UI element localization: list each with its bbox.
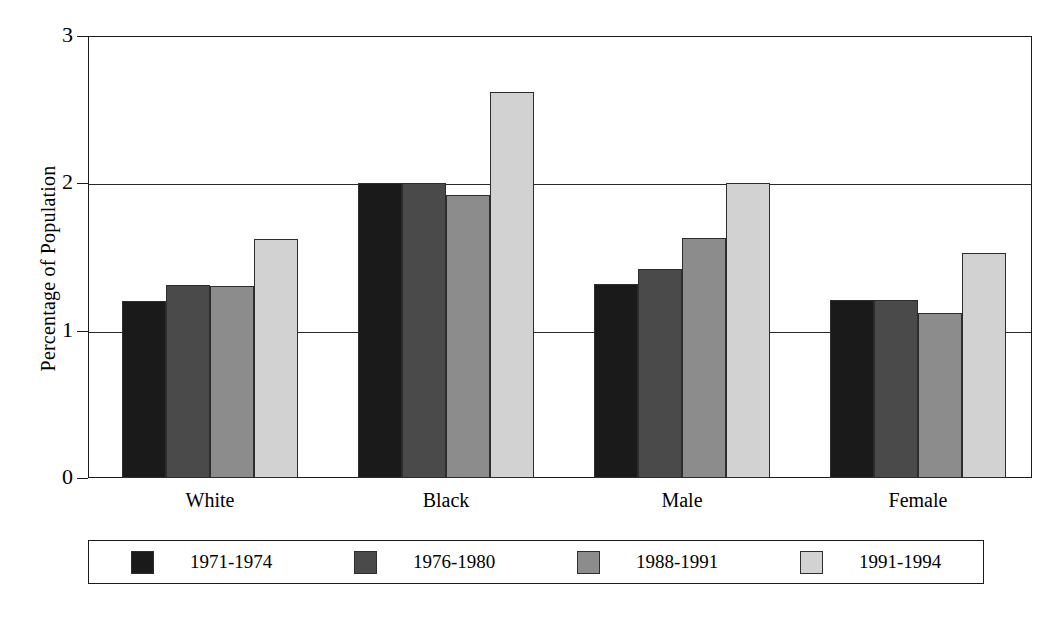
legend-swatch-icon-1976-1980 [354,551,377,574]
y-axis-title: Percentage of Population [37,79,60,459]
gridline-2 [89,184,1031,185]
legend-label-1988-1991: 1988-1991 [636,551,718,573]
x-axis-label-black: Black [356,489,536,512]
legend-swatch-icon-1988-1991 [577,551,600,574]
y-tick-1 [77,331,88,332]
bar-chart-figure: Percentage of Population 0123 WhiteBlack… [0,0,1051,624]
y-tick-label-1: 1 [29,319,73,341]
legend: 1971-19741976-19801988-19911991-1994 [88,540,984,584]
legend-item-1976-1980[interactable]: 1976-1980 [354,541,495,583]
y-tick-label-0: 0 [29,466,73,488]
gridline-1 [89,332,1031,333]
x-axis-label-female: Female [828,489,1008,512]
y-tick-label-2: 2 [29,171,73,193]
y-tick-2 [77,183,88,184]
y-tick-0 [77,478,88,479]
plot-area [88,36,1032,478]
legend-label-1976-1980: 1976-1980 [413,551,495,573]
y-tick-label-3: 3 [29,24,73,46]
legend-item-1971-1974[interactable]: 1971-1974 [131,541,272,583]
legend-item-1991-1994[interactable]: 1991-1994 [800,541,941,583]
x-axis-label-white: White [120,489,300,512]
legend-label-1991-1994: 1991-1994 [859,551,941,573]
x-axis-label-male: Male [592,489,772,512]
legend-swatch-icon-1971-1974 [131,551,154,574]
legend-swatch-icon-1991-1994 [800,551,823,574]
y-tick-3 [77,36,88,37]
legend-label-1971-1974: 1971-1974 [190,551,272,573]
legend-item-1988-1991[interactable]: 1988-1991 [577,541,718,583]
